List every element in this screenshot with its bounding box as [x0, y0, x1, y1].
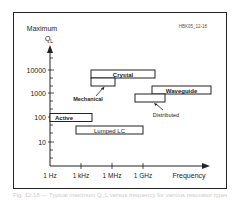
waveguide-label: Waveguide: [166, 88, 198, 94]
x-axis-arrow-icon: [202, 163, 210, 169]
mechanical-pointer: [96, 88, 103, 96]
distributed-arrow-icon: [154, 103, 158, 106]
y-axis-title-line1: Maximum: [27, 25, 58, 32]
y-axis-arrow-icon: [47, 45, 53, 53]
x-tick-label-1ghz: 1 GHz: [134, 172, 152, 179]
x-tick-label-1hz: 1 Hz: [43, 172, 56, 179]
q-vs-frequency-diagram: HBK05_12-18 Maximum QL 10000 1000 100 10…: [0, 0, 241, 200]
x-axis-title: Frequency: [172, 172, 206, 180]
distributed-label: Distributed: [153, 112, 179, 118]
active-label: Active: [55, 115, 74, 121]
x-tick-label-1mhz: 1 MHz: [103, 172, 122, 179]
x-tick-label-1khz: 1 kHz: [73, 172, 90, 179]
distributed-pointer: [156, 104, 163, 110]
figure-id: HBK05_12-18: [179, 24, 208, 29]
mechanical-box: [91, 78, 115, 86]
distributed-box: [135, 94, 165, 102]
mechanical-label: Mechanical: [73, 96, 103, 102]
lumped-lc-label: Lumped LC: [94, 128, 126, 134]
figure-caption: Fig. 12.18 — Typical maximum Q_L versus …: [13, 192, 227, 198]
crystal-label: Crystal: [113, 72, 134, 78]
y-tick-label-100: 100: [34, 114, 46, 121]
y-tick-label-10: 10: [38, 139, 46, 146]
y-ticks: [48, 58, 54, 158]
y-tick-label-1000: 1000: [30, 90, 46, 97]
y-tick-label-10000: 10000: [27, 67, 47, 74]
y-axis-title-q: QL: [45, 35, 53, 44]
